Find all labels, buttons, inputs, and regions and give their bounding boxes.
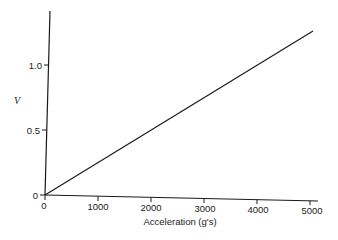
x-axis-title: Acceleration (g's) [143, 216, 216, 227]
y-tick-label: 0 [33, 190, 38, 201]
y-axis [45, 11, 50, 195]
x-tick-label: 2000 [140, 202, 161, 213]
y-axis-title: V [14, 95, 22, 106]
y-tick-labels: 0 0.5 1.0 [27, 60, 42, 201]
x-tick-label: 0 [41, 200, 46, 211]
y-tick-label: 1.0 [29, 60, 42, 71]
x-tick-label: 4000 [247, 204, 268, 215]
x-tick-label: 5000 [301, 205, 322, 216]
y-tick-label: 0.5 [27, 125, 40, 136]
data-line [45, 31, 313, 195]
x-tick-labels: 0 1000 2000 3000 4000 5000 [41, 200, 322, 216]
x-tick-label: 1000 [87, 201, 108, 212]
chart: 0 0.5 1.0 0 1000 2000 3000 4000 5000 Acc… [0, 0, 338, 240]
x-axis [45, 195, 318, 201]
x-tick-label: 3000 [194, 203, 215, 214]
